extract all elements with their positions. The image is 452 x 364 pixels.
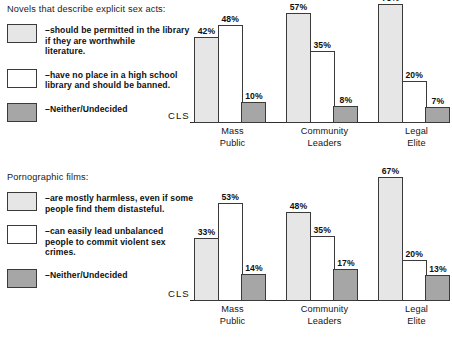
axis-origin-label-cls: CLS [168,110,190,121]
legend-label-banned: –have no place in a high school library … [45,69,178,91]
legend-swatch-light-icon [7,24,37,43]
plot-area-novels: CLS 42% 48% 10% Mass Public 57% [190,0,452,123]
bar-novels-community-permitted[interactable]: 57% [286,13,311,123]
legend-item-neither: –Neither/Undecided [7,103,189,122]
bar-value-label: 8% [340,95,353,105]
bar-novels-legalelite-neither[interactable]: 7% [425,107,450,123]
bar-group-legal-elite: 67% 20% 13% Legal Elite [378,168,452,301]
legend-swatch-dark-icon [7,269,37,288]
bar-novels-masspublic-banned[interactable]: 48% [218,25,243,123]
bar-value-label: 33% [198,227,216,237]
bar-novels-legalelite-permitted[interactable]: 73% [378,4,403,123]
axis-origin-label-cls: CLS [168,288,190,299]
bar-value-label: 17% [337,258,355,268]
bar-films-masspublic-neither[interactable]: 14% [241,274,266,301]
bar-films-legalelite-harmless[interactable]: 67% [378,177,403,301]
legend-swatch-white-icon [7,225,37,244]
category-label-mass-public: Mass Public [194,304,271,327]
plot-area-films: CLS 33% 53% 14% Mass Public 48% [190,168,452,301]
legend-item-banned: –have no place in a high school library … [7,69,189,91]
bar-novels-community-banned[interactable]: 35% [310,51,335,123]
chart-title-films: Pornographic films: [7,172,89,182]
legend-label-neither: –Neither/Undecided [45,103,128,115]
bar-value-label: 67% [382,166,400,176]
legend-label-violent-crimes: –can easily lead unbalanced people to co… [45,225,166,258]
chart-panel-films: Pornographic films: –are mostly harmless… [0,168,452,364]
bar-value-label: 35% [313,40,331,50]
bar-films-legalelite-violent[interactable]: 20% [402,260,427,301]
bar-films-masspublic-harmless[interactable]: 33% [194,238,219,301]
category-label-legal-elite: Legal Elite [378,126,452,149]
bar-value-label: 48% [290,201,308,211]
bar-value-label: 7% [432,96,445,106]
bar-novels-masspublic-neither[interactable]: 10% [241,102,266,123]
category-label-community-leaders: Community Leaders [286,304,363,327]
bar-value-label: 57% [290,2,308,12]
bar-value-label: 42% [198,26,216,36]
category-label-mass-public: Mass Public [194,126,271,149]
legend-label-neither: –Neither/Undecided [45,269,128,281]
bar-value-label: 20% [405,70,423,80]
legend-item-violent-crimes: –can easily lead unbalanced people to co… [7,225,193,258]
bar-films-community-violent[interactable]: 35% [310,236,335,301]
bar-group-community-leaders: 57% 35% 8% Community Leaders [286,0,363,123]
bar-novels-legalelite-banned[interactable]: 20% [402,81,427,123]
legend-label-harmless: –are mostly harmless, even if some peopl… [45,192,193,214]
bar-value-label: 48% [221,14,239,24]
legend-novels: –should be permitted in the library if t… [7,24,189,122]
chart-panel-novels: Novels that describe explicit sex acts: … [0,0,452,168]
bar-value-label: 53% [221,192,239,202]
bar-value-label: 35% [313,225,331,235]
category-label-community-leaders: Community Leaders [286,126,363,149]
bar-group-legal-elite: 73% 20% 7% Legal Elite [378,0,452,123]
bar-value-label: 13% [429,264,447,274]
legend-swatch-light-icon [7,192,37,211]
bar-films-community-harmless[interactable]: 48% [286,212,311,301]
legend-films: –are mostly harmless, even if some peopl… [7,192,193,288]
bar-novels-masspublic-permitted[interactable]: 42% [194,37,219,123]
legend-swatch-white-icon [7,69,37,88]
legend-item-harmless: –are mostly harmless, even if some peopl… [7,192,193,214]
legend-swatch-dark-icon [7,103,37,122]
bar-value-label: 20% [405,249,423,259]
bar-group-mass-public: 42% 48% 10% Mass Public [194,0,271,123]
legend-label-permitted: –should be permitted in the library if t… [45,24,189,57]
bar-films-community-neither[interactable]: 17% [333,269,358,301]
bar-group-mass-public: 33% 53% 14% Mass Public [194,168,271,301]
legend-item-neither: –Neither/Undecided [7,269,193,288]
bar-films-masspublic-violent[interactable]: 53% [218,203,243,301]
bar-value-label: 10% [245,91,263,101]
legend-item-permitted: –should be permitted in the library if t… [7,24,189,57]
category-label-legal-elite: Legal Elite [378,304,452,327]
bar-novels-community-neither[interactable]: 8% [333,106,358,123]
bar-films-legalelite-neither[interactable]: 13% [425,275,450,301]
bar-value-label: 14% [245,263,263,273]
chart-title-novels: Novels that describe explicit sex acts: [7,4,166,14]
bar-value-label: 73% [382,0,400,3]
bar-group-community-leaders: 48% 35% 17% Community Leaders [286,168,363,301]
